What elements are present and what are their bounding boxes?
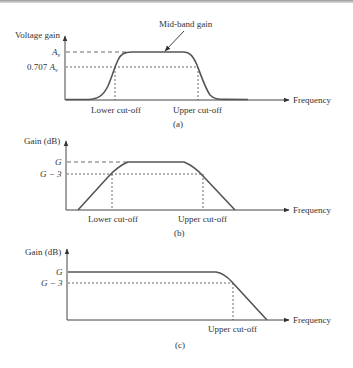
lowpass-response-curve	[68, 272, 267, 320]
level-av: Av	[51, 47, 61, 58]
mid-band-gain-annotation: Mid-band gain	[159, 19, 213, 29]
level-0707-av: 0.707 Av	[27, 62, 58, 73]
level-g-c: G	[56, 267, 63, 277]
caption-c: (c)	[175, 340, 185, 350]
piecewise-response-curve	[78, 162, 235, 210]
upper-cutoff-label-c: Upper cut-off	[208, 324, 257, 334]
x-axis-label-b: Frequency	[293, 205, 331, 215]
level-g3-b: G − 3	[40, 169, 62, 179]
y-axis-label-b: Gain (dB)	[24, 136, 60, 146]
upper-cutoff-label-a: Upper cut-off	[173, 105, 222, 115]
lower-cutoff-label-b: Lower cut-off	[88, 214, 138, 224]
level-g-b: G	[55, 157, 62, 167]
x-axis-label-a: Frequency	[293, 95, 331, 105]
lower-cutoff-label-a: Lower cut-off	[91, 105, 141, 115]
smooth-response-curve	[66, 52, 248, 100]
panel-c: Gain (dB) Frequency G G − 3 Upper cut-of…	[25, 247, 331, 350]
y-axis-label-c: Gain (dB)	[25, 247, 61, 257]
x-axis-label-c: Frequency	[293, 315, 331, 325]
caption-b: (b)	[174, 228, 185, 238]
caption-a: (a)	[173, 119, 183, 129]
panel-a: Voltage gain Frequency Av 0.707 Av Mid-b…	[15, 19, 331, 129]
y-axis-label-a: Voltage gain	[15, 30, 61, 40]
panel-b: Gain (dB) Frequency G G − 3 Lower cut-of…	[24, 136, 331, 238]
level-g3-c: G − 3	[41, 278, 63, 288]
frequency-response-figure: Voltage gain Frequency Av 0.707 Av Mid-b…	[0, 0, 353, 368]
mid-band-arrow	[165, 31, 184, 51]
upper-cutoff-label-b: Upper cut-off	[178, 214, 227, 224]
